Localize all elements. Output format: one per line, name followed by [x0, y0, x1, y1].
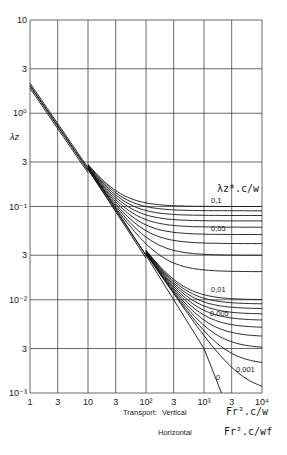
- curve-label-0.05: 0,05: [211, 224, 226, 233]
- y-axis-label: λz: [9, 132, 19, 142]
- curve-label-0.1: 0,1: [211, 196, 221, 205]
- y-tick: 3: [22, 64, 27, 74]
- curve-zero: [30, 85, 222, 393]
- y-tick: 10⁻¹: [9, 202, 27, 212]
- x-tick: 10²: [139, 397, 152, 407]
- y-tick-labels: 10310⁰310⁻¹310⁻²310⁻³: [9, 15, 27, 398]
- horizontal-expr: Fr².c/wf: [224, 426, 272, 437]
- curve-upper: [88, 167, 262, 227]
- curve-label-0: 0: [216, 373, 220, 382]
- vertical-label: Vertical: [162, 408, 187, 417]
- diagonal-line: [30, 88, 88, 172]
- diagonal-line: [30, 86, 88, 170]
- x-tick: 1: [27, 397, 32, 407]
- y-tick: 3: [22, 344, 27, 354]
- horizontal-label: Horizontal: [158, 428, 192, 437]
- y-tick: 10⁰: [13, 108, 27, 118]
- x-tick: 3: [113, 397, 118, 407]
- curve-label-0.005: 0,005: [210, 309, 229, 318]
- y-tick: 3: [22, 157, 27, 167]
- x-tick: 3: [55, 397, 60, 407]
- x-tick: 10³: [197, 397, 210, 407]
- vertical-expr: Fr².c/w: [226, 406, 269, 417]
- y-tick: 3: [22, 250, 27, 260]
- parameter-label: λz*.c/w: [217, 183, 260, 194]
- diagonal-line: [30, 83, 88, 167]
- curve-label-0.01: 0,01: [211, 285, 226, 294]
- transport-label: Transport:: [123, 408, 157, 417]
- log-log-chart: 10310⁰310⁻¹310⁻²310⁻³ 1310310²310³310⁴ λ…: [0, 0, 287, 455]
- y-tick: 10⁻³: [9, 388, 27, 398]
- x-tick: 3: [171, 397, 176, 407]
- y-tick: 10: [17, 15, 27, 25]
- curve-upper: [88, 169, 262, 256]
- y-tick: 10⁻²: [9, 295, 27, 305]
- curve-upper: [88, 168, 262, 235]
- curve-label-0.001: 0,001: [236, 365, 255, 374]
- x-tick: 10: [83, 397, 93, 407]
